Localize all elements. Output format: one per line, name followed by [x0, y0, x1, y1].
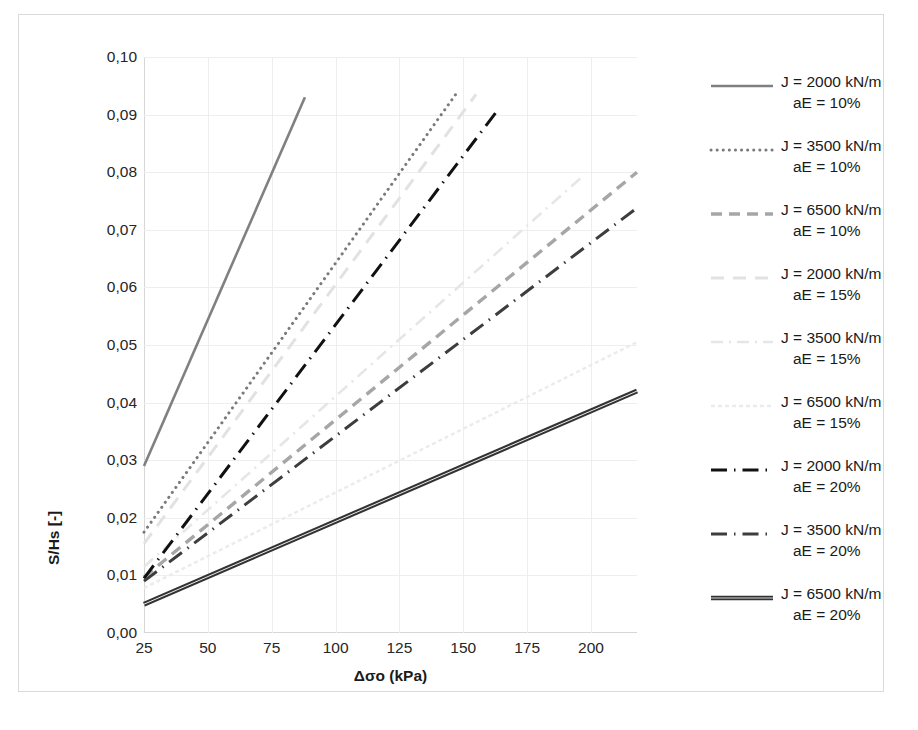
legend-item[interactable]: J = 2000 kN/maE = 15%: [709, 263, 899, 327]
legend-label-line2: aE = 20%: [781, 476, 881, 497]
legend-line-swatch: [709, 143, 775, 157]
legend-label-line1: J = 2000 kN/m: [781, 71, 881, 92]
x-tick-label: 100: [323, 639, 349, 657]
legend-label: J = 2000 kN/maE = 10%: [781, 71, 881, 113]
legend-line-swatch: [709, 79, 775, 93]
legend-label: J = 6500 kN/maE = 20%: [781, 583, 881, 625]
y-axis-tick-labels: 0,000,010,020,030,040,050,060,070,080,09…: [71, 57, 137, 633]
x-axis-title: Δσo (kPa): [144, 667, 637, 685]
legend-label-line2: aE = 15%: [781, 412, 881, 433]
legend-line-swatch: [709, 527, 775, 541]
y-tick-label: 0,08: [77, 163, 137, 181]
data-series-lines: [144, 57, 637, 633]
x-tick-label: 200: [578, 639, 604, 657]
legend-label-line1: J = 3500 kN/m: [781, 327, 881, 348]
legend-item[interactable]: J = 6500 kN/maE = 10%: [709, 199, 899, 263]
y-tick-label: 0,09: [77, 106, 137, 124]
x-tick-label: 175: [514, 639, 540, 657]
legend-label-line2: aE = 10%: [781, 156, 881, 177]
y-tick-label: 0,02: [77, 509, 137, 527]
legend-label-line1: J = 6500 kN/m: [781, 391, 881, 412]
series-line: [144, 342, 637, 588]
plot-area: [144, 57, 637, 633]
x-tick-label: 50: [199, 639, 216, 657]
y-tick-label: 0,00: [77, 624, 137, 642]
legend-item[interactable]: J = 2000 kN/maE = 10%: [709, 71, 899, 135]
legend-item[interactable]: J = 3500 kN/maE = 15%: [709, 327, 899, 391]
series-line: [144, 391, 637, 604]
legend-line-swatch: [709, 591, 775, 605]
x-tick-label: 75: [263, 639, 280, 657]
y-tick-label: 0,07: [77, 221, 137, 239]
legend-label-line1: J = 2000 kN/m: [781, 263, 881, 284]
legend-label: J = 3500 kN/maE = 20%: [781, 519, 881, 561]
x-tick-label: 125: [387, 639, 413, 657]
legend-label-line1: J = 3500 kN/m: [781, 519, 881, 540]
legend-item[interactable]: J = 6500 kN/maE = 15%: [709, 391, 899, 455]
legend-label-line1: J = 6500 kN/m: [781, 583, 881, 604]
legend-label-line1: J = 6500 kN/m: [781, 199, 881, 220]
series-line: [144, 208, 637, 581]
legend-label-line2: aE = 15%: [781, 348, 881, 369]
legend-item[interactable]: J = 2000 kN/maE = 20%: [709, 455, 899, 519]
legend-line-swatch: [709, 207, 775, 221]
x-tick-label: 150: [450, 639, 476, 657]
legend-line-swatch: [709, 463, 775, 477]
y-tick-label: 0,04: [77, 394, 137, 412]
y-tick-label: 0,05: [77, 336, 137, 354]
legend-line-swatch: [709, 399, 775, 413]
chart-frame: S/Hs [-] 0,000,010,020,030,040,050,060,0…: [18, 14, 884, 692]
y-axis-title: S/Hs [-]: [45, 511, 63, 565]
y-tick-label: 0,01: [77, 566, 137, 584]
series-line: [144, 94, 476, 543]
legend-item[interactable]: J = 3500 kN/maE = 10%: [709, 135, 899, 199]
chart-legend: J = 2000 kN/maE = 10%J = 3500 kN/maE = 1…: [709, 71, 899, 647]
y-tick-label: 0,10: [77, 48, 137, 66]
chart-screenshot: S/Hs [-] 0,000,010,020,030,040,050,060,0…: [0, 0, 918, 730]
legend-label-line2: aE = 15%: [781, 284, 881, 305]
legend-label-line1: J = 3500 kN/m: [781, 135, 881, 156]
x-tick-label: 25: [135, 639, 152, 657]
legend-label: J = 2000 kN/maE = 20%: [781, 455, 881, 497]
legend-label-line2: aE = 20%: [781, 604, 881, 625]
legend-label: J = 6500 kN/maE = 15%: [781, 391, 881, 433]
y-tick-label: 0,06: [77, 278, 137, 296]
legend-line-swatch: [709, 271, 775, 285]
legend-label: J = 6500 kN/maE = 10%: [781, 199, 881, 241]
legend-label: J = 3500 kN/maE = 15%: [781, 327, 881, 369]
legend-item[interactable]: J = 3500 kN/maE = 20%: [709, 519, 899, 583]
x-axis-tick-labels: 255075100125150175200: [144, 639, 637, 663]
series-line: [144, 97, 305, 466]
series-line: [144, 94, 456, 532]
legend-label: J = 3500 kN/maE = 10%: [781, 135, 881, 177]
legend-label: J = 2000 kN/maE = 15%: [781, 263, 881, 305]
legend-line-swatch: [709, 335, 775, 349]
series-line: [144, 172, 637, 577]
legend-label-line2: aE = 10%: [781, 92, 881, 113]
legend-label-line2: aE = 20%: [781, 540, 881, 561]
legend-label-line2: aE = 10%: [781, 220, 881, 241]
legend-label-line1: J = 2000 kN/m: [781, 455, 881, 476]
y-tick-label: 0,03: [77, 451, 137, 469]
legend-item[interactable]: J = 6500 kN/maE = 20%: [709, 583, 899, 647]
